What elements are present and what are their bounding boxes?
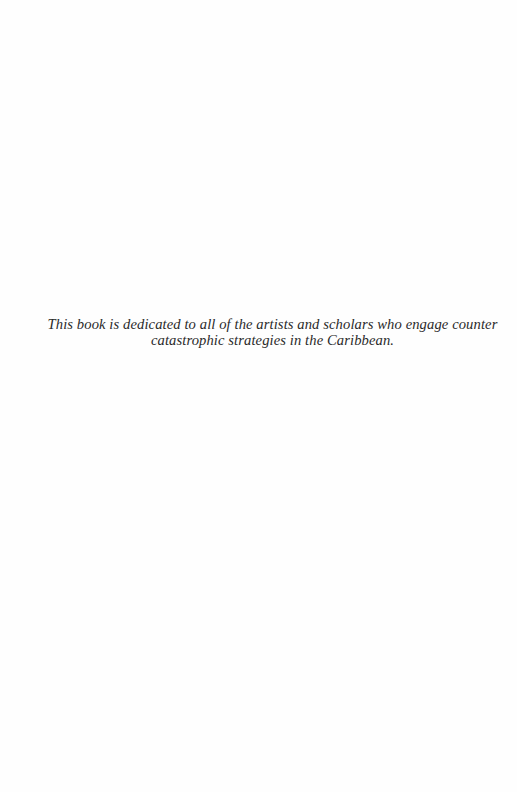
book-page: This book is dedicated to all of the art…	[0, 0, 517, 792]
dedication-text: This book is dedicated to all of the art…	[40, 316, 505, 348]
dedication-line-1: This book is dedicated to all of the art…	[40, 316, 505, 332]
dedication-line-2: catastrophic strategies in the Caribbean…	[40, 332, 505, 348]
